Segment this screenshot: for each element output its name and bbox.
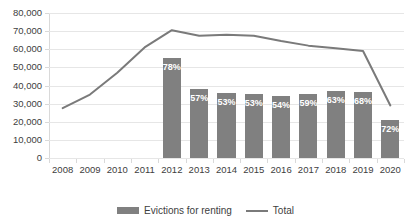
line-swatch-icon: [246, 210, 268, 212]
gridline: [49, 49, 404, 50]
x-axis-tick-label: 2017: [298, 164, 319, 175]
x-axis-tick-mark: [295, 159, 296, 163]
bar-data-label: 53%: [217, 98, 235, 107]
bar: 68%: [354, 92, 372, 158]
x-axis-tick-label: 2020: [380, 164, 401, 175]
x-axis-tick-label: 2010: [107, 164, 128, 175]
bar: 53%: [217, 93, 235, 158]
x-axis-tick-mark: [186, 159, 187, 163]
x-axis-tick-label: 2013: [189, 164, 210, 175]
y-axis-tick-label: 50,000: [0, 63, 42, 73]
y-axis-tick-label: 80,000: [0, 8, 42, 18]
legend-label-evictions-for-renting: Evictions for renting: [144, 205, 232, 216]
y-axis-tick-label: 30,000: [0, 99, 42, 109]
x-axis-labels: 2008200920102011201220132014201520162017…: [49, 164, 404, 180]
x-axis-tick-mark: [322, 159, 323, 163]
y-axis-tick-mark: [45, 49, 49, 50]
bar: 53%: [245, 94, 263, 158]
x-axis-tick-label: 2009: [79, 164, 100, 175]
x-axis-tick-mark: [158, 159, 159, 163]
legend-item-total: Total: [246, 205, 294, 216]
x-axis-tick-label: 2016: [271, 164, 292, 175]
y-axis-tick-label: 20,000: [0, 117, 42, 127]
x-axis-tick-mark: [267, 159, 268, 163]
bar-data-label: 63%: [327, 96, 345, 105]
y-axis-tick-label: 70,000: [0, 26, 42, 36]
x-axis-tick-label: 2019: [352, 164, 373, 175]
x-axis-tick-mark: [240, 159, 241, 163]
gridline: [49, 86, 404, 87]
y-axis-tick-mark: [45, 122, 49, 123]
y-axis-tick-mark: [45, 86, 49, 87]
x-axis-tick-mark: [349, 159, 350, 163]
bar-data-label: 59%: [299, 99, 317, 108]
legend-label-total: Total: [273, 205, 294, 216]
x-axis-tick-label: 2014: [216, 164, 237, 175]
x-axis-tick-label: 2012: [161, 164, 182, 175]
x-axis-tick-mark: [213, 159, 214, 163]
bar: 72%: [381, 120, 399, 158]
y-axis-tick-mark: [45, 140, 49, 141]
bar: 54%: [272, 96, 290, 158]
legend-item-evictions-for-renting: Evictions for renting: [117, 205, 232, 216]
y-axis-tick-label: 60,000: [0, 45, 42, 55]
y-axis-tick-label: 0: [0, 153, 42, 163]
x-axis-tick-mark: [104, 159, 105, 163]
bar-data-label: 54%: [272, 101, 290, 110]
y-axis-tick-mark: [45, 31, 49, 32]
x-axis-tick-label: 2011: [134, 164, 154, 175]
gridline: [49, 67, 404, 68]
x-axis-tick-mark: [131, 159, 132, 163]
bar: 63%: [327, 91, 345, 158]
bar-data-label: 53%: [245, 99, 263, 108]
gridline: [49, 13, 404, 14]
x-axis-tick-mark: [76, 159, 77, 163]
y-axis-tick-mark: [45, 13, 49, 14]
plot-area: 78%57%53%53%54%59%63%68%72%: [49, 13, 404, 158]
bar-swatch-icon: [117, 207, 139, 214]
bar: 78%: [163, 58, 181, 158]
y-axis-tick-mark: [45, 67, 49, 68]
bar: 59%: [299, 94, 317, 158]
chart-container: 010,00020,00030,00040,00050,00060,00070,…: [0, 0, 411, 223]
bar-data-label: 68%: [354, 97, 372, 106]
y-axis-tick-mark: [45, 104, 49, 105]
x-axis-tick-label: 2018: [325, 164, 346, 175]
bar-data-label: 78%: [163, 63, 181, 72]
x-axis-tick-label: 2015: [243, 164, 264, 175]
gridline: [49, 31, 404, 32]
x-axis-tick-mark: [49, 159, 50, 163]
y-axis-tick-label: 40,000: [0, 81, 42, 91]
x-axis-tick-mark: [377, 159, 378, 163]
gridline: [49, 158, 404, 159]
bar-data-label: 72%: [381, 125, 399, 134]
bar: 57%: [190, 89, 208, 158]
y-axis-tick-label: 10,000: [0, 135, 42, 145]
chart-legend: Evictions for renting Total: [0, 205, 411, 216]
y-axis-labels: 010,00020,00030,00040,00050,00060,00070,…: [0, 13, 44, 158]
bar-data-label: 57%: [190, 94, 208, 103]
x-axis-tick-mark: [404, 159, 405, 163]
x-axis-tick-label: 2008: [52, 164, 73, 175]
